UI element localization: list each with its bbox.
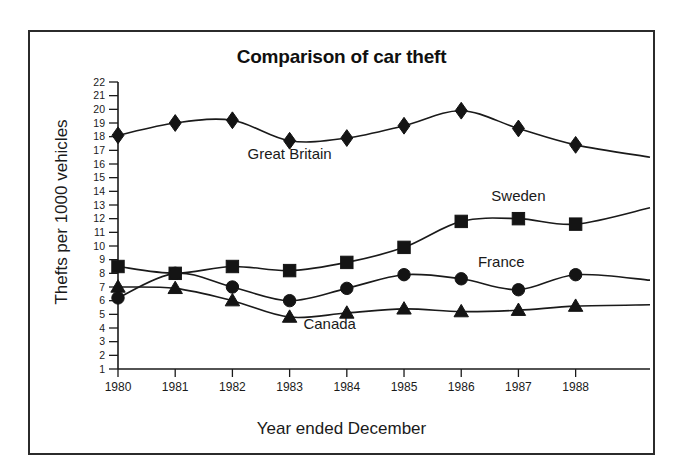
marker-circle	[512, 284, 524, 296]
marker-triangle	[454, 304, 468, 316]
marker-diamond	[169, 115, 181, 132]
y-tick-label: 13	[93, 199, 105, 211]
series-sweden: Sweden	[112, 187, 650, 280]
x-tick-label: 1988	[562, 380, 589, 394]
series-label-great-britain: Great Britain	[248, 145, 332, 162]
y-tick-label: 21	[93, 89, 105, 101]
series-label-canada: Canada	[303, 315, 356, 332]
series-label-sweden: Sweden	[491, 187, 545, 204]
series-line	[118, 111, 650, 157]
marker-circle	[283, 294, 295, 306]
marker-circle	[569, 269, 581, 281]
marker-square	[226, 260, 238, 272]
marker-triangle	[568, 299, 582, 311]
series-line	[118, 287, 650, 318]
marker-square	[398, 241, 410, 253]
x-tick-label: 1982	[219, 380, 246, 394]
plot-area: 2221201918171615141312111098765432119801…	[30, 32, 657, 457]
y-tick-label: 15	[93, 171, 105, 183]
y-tick-label: 22	[93, 76, 105, 88]
marker-circle	[112, 292, 124, 304]
x-tick-label: 1985	[391, 380, 418, 394]
y-tick-label: 11	[94, 226, 105, 238]
marker-circle	[455, 273, 467, 285]
marker-diamond	[341, 130, 353, 147]
chart-figure: Comparison of car theft Thefts per 1000 …	[28, 30, 655, 455]
y-tick-label: 10	[93, 240, 105, 252]
marker-diamond	[512, 120, 524, 137]
y-tick-label: 7	[99, 281, 105, 293]
marker-diamond	[398, 117, 410, 134]
x-tick-label: 1983	[276, 380, 303, 394]
y-tick-label: 5	[99, 308, 105, 320]
y-tick-label: 6	[99, 294, 105, 306]
y-tick-label: 18	[93, 130, 105, 142]
y-tick-label: 1	[99, 363, 105, 375]
marker-diamond	[112, 127, 124, 144]
marker-circle	[341, 282, 353, 294]
marker-square	[512, 212, 524, 224]
y-tick-label: 16	[93, 158, 105, 170]
marker-square	[569, 218, 581, 230]
x-tick-label: 1984	[333, 380, 360, 394]
marker-diamond	[455, 102, 467, 119]
marker-circle	[398, 269, 410, 281]
series-france: France	[112, 253, 650, 307]
marker-diamond	[570, 136, 582, 153]
y-tick-label: 14	[93, 185, 105, 197]
marker-square	[283, 264, 295, 276]
y-tick-label: 2	[99, 349, 105, 361]
y-tick-label: 9	[99, 253, 105, 265]
y-tick-label: 17	[93, 144, 105, 156]
marker-diamond	[226, 112, 238, 129]
y-tick-label: 19	[93, 117, 105, 129]
marker-triangle	[397, 302, 411, 314]
y-tick-label: 3	[99, 335, 105, 347]
y-tick-label: 8	[99, 267, 105, 279]
x-tick-label: 1986	[448, 380, 475, 394]
marker-square	[455, 215, 467, 227]
x-tick-label: 1981	[162, 380, 189, 394]
marker-circle	[226, 281, 238, 293]
marker-square	[112, 260, 124, 272]
marker-triangle	[111, 280, 125, 292]
series-canada: Canada	[111, 280, 650, 333]
x-tick-label: 1980	[105, 380, 132, 394]
y-tick-label: 4	[99, 322, 105, 334]
series-great-britain: Great Britain	[112, 102, 650, 161]
y-tick-label: 20	[93, 103, 105, 115]
series-label-france: France	[478, 253, 525, 270]
x-tick-label: 1987	[505, 380, 532, 394]
y-tick-label: 12	[93, 212, 105, 224]
marker-circle	[169, 267, 181, 279]
marker-square	[341, 256, 353, 268]
